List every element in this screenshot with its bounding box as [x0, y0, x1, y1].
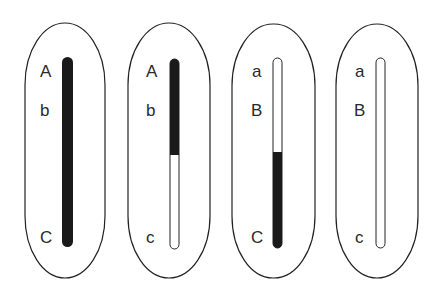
gene-label-2: B	[354, 101, 365, 120]
cell-1: A b C	[25, 23, 105, 278]
gene-label-2: b	[40, 101, 49, 120]
chromosome-diagram: A b C A b c a B C a B c	[0, 0, 437, 298]
gene-label-1: a	[355, 62, 365, 81]
gene-label-1: A	[146, 62, 158, 81]
gene-label-2: b	[146, 101, 155, 120]
gene-label-1: A	[40, 62, 52, 81]
gene-label-1: a	[252, 62, 262, 81]
cell-outline	[128, 23, 210, 278]
gene-label-3: C	[251, 228, 263, 247]
chromosome-filled-segment	[273, 152, 282, 248]
cell-2: A b c	[128, 23, 210, 278]
chromosome-filled-segment	[170, 59, 179, 155]
gene-label-3: C	[40, 228, 52, 247]
chromosome-bar	[376, 58, 385, 248]
gene-label-2: B	[251, 101, 262, 120]
cell-4: a B c	[336, 24, 418, 278]
cell-3: a B C	[232, 24, 315, 278]
gene-label-3: c	[146, 228, 155, 247]
gene-label-3: c	[355, 228, 364, 247]
chromosome-bar	[62, 57, 73, 247]
